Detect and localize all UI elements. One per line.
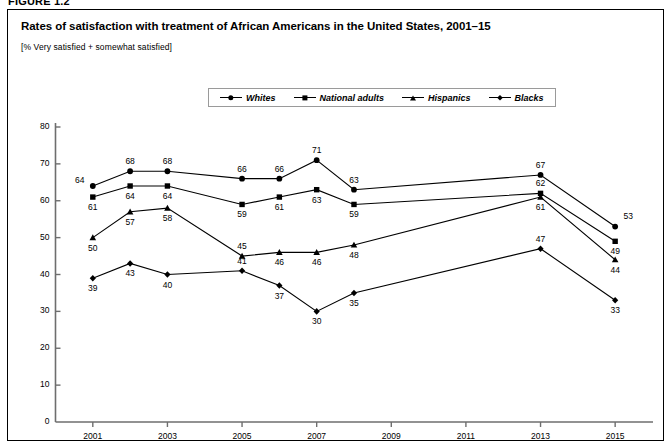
- data-point-label: 64: [156, 191, 178, 201]
- data-point-square: [90, 194, 95, 199]
- data-point-diamond: [537, 245, 543, 252]
- data-point-label: 63: [343, 175, 365, 185]
- y-tick-label: 10: [28, 379, 50, 389]
- data-point-circle: [351, 187, 357, 193]
- data-point-label: 43: [119, 268, 141, 278]
- x-tick-label: 2007: [300, 431, 334, 441]
- data-point-triangle: [164, 205, 171, 211]
- plot-area: 0102030405060708020012003200520072009201…: [8, 10, 665, 442]
- figure-frame: Rates of satisfaction with treatment of …: [7, 9, 664, 441]
- data-point-label: 48: [343, 250, 365, 260]
- data-point-label: 64: [69, 175, 91, 185]
- data-point-circle: [538, 172, 544, 178]
- data-point-label: 37: [268, 291, 290, 301]
- data-point-label: 67: [530, 160, 552, 170]
- data-point-label: 47: [530, 234, 552, 244]
- data-point-diamond: [127, 260, 133, 267]
- y-tick-label: 30: [28, 305, 50, 315]
- data-point-label: 61: [82, 202, 104, 212]
- x-tick-label: 2011: [449, 431, 483, 441]
- data-point-label: 30: [306, 316, 328, 326]
- x-tick-label: 2003: [150, 431, 184, 441]
- data-point-square: [351, 202, 356, 207]
- data-point-label: 39: [82, 283, 104, 293]
- data-point-diamond: [314, 308, 320, 315]
- data-point-circle: [276, 176, 282, 182]
- x-tick-label: 2013: [524, 431, 558, 441]
- data-point-diamond: [90, 275, 96, 282]
- data-point-label: 63: [306, 195, 328, 205]
- data-point-label: 62: [530, 178, 552, 188]
- x-tick-label: 2005: [225, 431, 259, 441]
- chart-canvas: [8, 10, 665, 442]
- data-point-circle: [239, 176, 245, 182]
- data-point-diamond: [276, 282, 282, 289]
- data-point-label: 33: [604, 305, 626, 315]
- x-tick-label: 2001: [76, 431, 110, 441]
- y-tick-label: 40: [28, 269, 50, 279]
- y-tick-label: 60: [28, 195, 50, 205]
- data-point-label: 68: [119, 156, 141, 166]
- data-point-label: 61: [268, 202, 290, 212]
- data-point-label: 50: [82, 243, 104, 253]
- data-point-label: 35: [343, 298, 365, 308]
- y-tick-label: 0: [28, 416, 50, 426]
- data-point-square: [165, 183, 170, 188]
- data-point-label: 57: [119, 217, 141, 227]
- data-point-circle: [127, 168, 133, 174]
- data-point-label: 61: [530, 202, 552, 212]
- data-point-diamond: [164, 271, 170, 278]
- figure-number: FIGURE 1.2: [8, 0, 70, 7]
- y-tick-label: 70: [28, 158, 50, 168]
- data-point-label: 53: [617, 211, 639, 221]
- data-point-label: 44: [604, 265, 626, 275]
- data-point-diamond: [351, 290, 357, 297]
- data-point-square: [127, 183, 132, 188]
- y-tick-label: 50: [28, 232, 50, 242]
- data-point-label: 49: [604, 246, 626, 256]
- data-point-label: 71: [306, 145, 328, 155]
- data-point-label: 46: [306, 257, 328, 267]
- data-point-label: 40: [156, 280, 178, 290]
- data-point-diamond: [239, 268, 245, 275]
- data-point-label: 58: [156, 213, 178, 223]
- data-point-label: 66: [231, 164, 253, 174]
- data-point-label: 59: [343, 209, 365, 219]
- data-point-label: 59: [231, 209, 253, 219]
- data-point-square: [314, 187, 319, 192]
- data-point-diamond: [612, 297, 618, 304]
- data-point-circle: [314, 157, 320, 163]
- data-point-label: 41: [231, 256, 253, 266]
- data-point-circle: [165, 168, 171, 174]
- data-point-square: [612, 239, 617, 244]
- x-tick-label: 2015: [598, 431, 632, 441]
- data-point-label: 46: [268, 257, 290, 267]
- x-tick-label: 2009: [374, 431, 408, 441]
- data-point-square: [239, 202, 244, 207]
- data-point-label: 45: [231, 241, 253, 251]
- data-point-triangle: [90, 234, 97, 240]
- data-point-square: [277, 194, 282, 199]
- y-tick-label: 80: [28, 121, 50, 131]
- data-point-label: 64: [119, 191, 141, 201]
- y-tick-label: 20: [28, 342, 50, 352]
- data-point-label: 68: [156, 156, 178, 166]
- data-point-label: 66: [268, 164, 290, 174]
- data-point-circle: [612, 224, 618, 230]
